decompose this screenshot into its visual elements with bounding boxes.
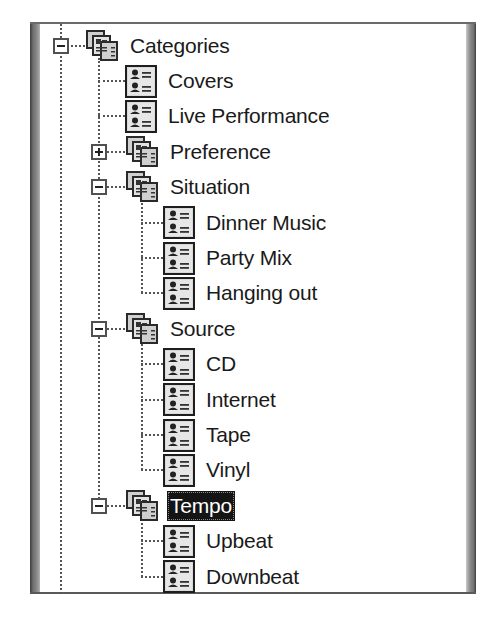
category-group-icon	[125, 490, 159, 526]
contact-list-icon	[125, 65, 157, 102]
tree-node-label[interactable]: Vinyl	[203, 455, 253, 485]
contact-list-icon	[163, 525, 195, 562]
tree-node-hanging-out[interactable]: Hanging out	[30, 276, 450, 312]
tree-node-covers[interactable]: Covers	[30, 63, 450, 99]
contact-list-icon	[163, 206, 195, 243]
tree-connector-line	[98, 115, 125, 117]
tree-node-label[interactable]: Covers	[165, 66, 236, 96]
tree-connector-line	[141, 399, 163, 401]
contact-list-icon	[163, 454, 195, 491]
tree-node-label[interactable]: Preference	[167, 137, 274, 167]
tree-node-label[interactable]: Upbeat	[203, 526, 276, 556]
tree-node-label[interactable]: Tape	[203, 420, 254, 450]
tree-node-label[interactable]: Hanging out	[203, 278, 320, 308]
minus-box-icon[interactable]	[53, 38, 69, 54]
category-group-icon	[125, 313, 159, 349]
tree-node-vinyl[interactable]: Vinyl	[30, 453, 450, 489]
category-group-icon	[85, 30, 119, 66]
tree-node-tempo[interactable]: Tempo	[30, 488, 450, 524]
tree-node-live-performance[interactable]: Live Performance	[30, 99, 450, 135]
tree-connector-line	[141, 469, 163, 471]
contact-list-icon	[125, 100, 157, 137]
minus-box-icon[interactable]	[91, 321, 107, 337]
tree-node-internet[interactable]: Internet	[30, 382, 450, 418]
contact-list-icon	[163, 277, 195, 314]
tree-node-label[interactable]: Situation	[167, 172, 253, 202]
tree-node-tape[interactable]: Tape	[30, 417, 450, 453]
tree-connector-line	[141, 257, 163, 259]
tree-node-preference[interactable]: Preference	[30, 134, 450, 170]
minus-box-icon[interactable]	[91, 179, 107, 195]
category-tree[interactable]: CategoriesCoversLive PerformancePreferen…	[30, 24, 476, 592]
tree-node-label[interactable]: Dinner Music	[203, 208, 329, 238]
tree-node-label[interactable]: Tempo	[167, 491, 235, 521]
category-group-icon	[125, 136, 159, 172]
tree-connector-line	[141, 363, 163, 365]
tree-view-panel: CategoriesCoversLive PerformancePreferen…	[30, 22, 476, 594]
tree-node-dinner-music[interactable]: Dinner Music	[30, 205, 450, 241]
plus-box-icon[interactable]	[91, 144, 107, 160]
tree-node-label[interactable]: Downbeat	[203, 562, 302, 592]
tree-connector-line	[98, 80, 125, 82]
tree-connector-line	[141, 576, 163, 578]
contact-list-icon	[163, 560, 195, 597]
tree-connector-line	[141, 540, 163, 542]
tree-node-cd[interactable]: CD	[30, 347, 450, 383]
tree-node-categories[interactable]: Categories	[30, 28, 450, 64]
minus-box-icon[interactable]	[91, 498, 107, 514]
tree-node-upbeat[interactable]: Upbeat	[30, 524, 450, 560]
tree-node-source[interactable]: Source	[30, 311, 450, 347]
tree-node-situation[interactable]: Situation	[30, 170, 450, 206]
tree-node-label[interactable]: Source	[167, 314, 238, 344]
contact-list-icon	[163, 383, 195, 420]
category-group-icon	[125, 171, 159, 207]
tree-connector-line	[141, 292, 163, 294]
tree-node-label[interactable]: CD	[203, 349, 239, 379]
tree-node-label[interactable]: Categories	[127, 31, 233, 61]
tree-node-label[interactable]: Internet	[203, 385, 279, 415]
tree-connector-line	[141, 222, 163, 224]
tree-node-downbeat[interactable]: Downbeat	[30, 559, 450, 595]
tree-node-party-mix[interactable]: Party Mix	[30, 240, 450, 276]
tree-node-label[interactable]: Party Mix	[203, 243, 295, 273]
contact-list-icon	[163, 242, 195, 279]
contact-list-icon	[163, 348, 195, 385]
tree-connector-line	[141, 434, 163, 436]
contact-list-icon	[163, 419, 195, 456]
tree-node-label[interactable]: Live Performance	[165, 101, 332, 131]
